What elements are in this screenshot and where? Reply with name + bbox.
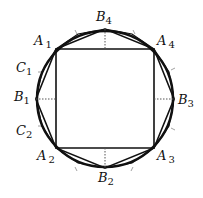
label-b2: B2 xyxy=(97,170,114,187)
geometry-diagram: B4 A1 A4 C1 B1 B3 C2 A2 A3 B2 xyxy=(0,0,203,198)
label-b3: B3 xyxy=(177,92,194,109)
label-a3: A3 xyxy=(156,148,175,165)
label-c2: C2 xyxy=(16,123,32,140)
inscribed-square xyxy=(56,49,154,148)
label-a4: A4 xyxy=(156,33,175,50)
label-b1: B1 xyxy=(13,89,30,106)
label-a2: A2 xyxy=(36,148,55,165)
circumscribed-circle xyxy=(37,31,173,167)
label-a1: A1 xyxy=(33,33,52,50)
label-c1: C1 xyxy=(16,60,32,77)
label-b4: B4 xyxy=(95,9,112,26)
